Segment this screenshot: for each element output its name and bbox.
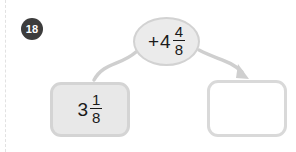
answer-input-box[interactable] <box>207 80 287 137</box>
input-denominator: 8 <box>90 110 102 125</box>
input-fraction: 1 8 <box>90 92 102 126</box>
operator-oval: + 4 4 8 <box>133 17 200 66</box>
worksheet-problem: 18 + 4 4 8 3 1 8 <box>0 0 296 152</box>
output-connector-curve <box>199 50 242 72</box>
operator-whole-number: 4 <box>160 32 173 51</box>
input-value: 3 1 8 <box>78 93 103 127</box>
operator-numerator: 4 <box>173 24 185 39</box>
output-arrowhead-icon <box>236 64 249 79</box>
operator-symbol: + <box>148 32 160 51</box>
input-value-box: 3 1 8 <box>50 82 130 137</box>
input-connector-curve <box>94 52 136 80</box>
operator-fraction: 4 8 <box>173 24 185 58</box>
input-numerator: 1 <box>90 92 102 107</box>
input-whole-number: 3 <box>78 100 91 119</box>
operator-value: + 4 4 8 <box>148 25 185 59</box>
operator-denominator: 8 <box>173 42 185 57</box>
